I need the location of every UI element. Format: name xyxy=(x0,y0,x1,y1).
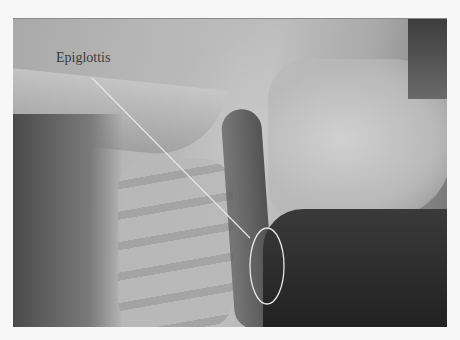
annotation-overlay xyxy=(0,0,460,340)
epiglottis-ellipse xyxy=(250,228,284,304)
leader-line xyxy=(92,78,250,238)
